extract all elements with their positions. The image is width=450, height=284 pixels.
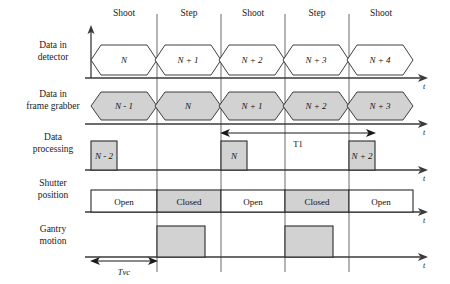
frame-grabber-time-axis-label: t: [423, 128, 426, 137]
row-label-detector-line2: detector: [38, 52, 69, 62]
column-header-3: Step: [309, 8, 326, 18]
detector-packet-label-1: N + 1: [176, 55, 198, 65]
detector-packet-label-4: N + 4: [368, 55, 391, 65]
row-label-processing-line2: processing: [33, 144, 74, 154]
frame-grabber-packet-label-3: N + 2: [304, 101, 327, 111]
annotation-tvc: Tvc: [90, 257, 158, 277]
annotation-t1-label: T1: [293, 139, 302, 149]
detector-time-axis-label: t: [423, 82, 426, 91]
shutter-time-axis-label: t: [423, 216, 426, 225]
timing-diagram-svg: Shoot Step Shoot Step Shoot Data in dete…: [0, 0, 450, 284]
timing-diagram: Shoot Step Shoot Step Shoot Data in dete…: [0, 0, 450, 284]
row-gantry: Gantry motion t Tvc: [40, 224, 428, 277]
gantry-block-1: [285, 226, 333, 257]
frame-grabber-packet-label-2: N + 1: [240, 101, 262, 111]
gantry-block-0: [157, 226, 205, 257]
row-detector: Data in detector t N N + 1 N + 2 N + 3 N…: [38, 25, 428, 91]
column-header-2: Shoot: [242, 8, 265, 18]
row-label-gantry-line2: motion: [40, 236, 67, 246]
gantry-time-axis-label: t: [423, 261, 426, 270]
row-label-frame-grabber-line1: Data in: [39, 89, 67, 99]
frame-grabber-packet-label-0: N - 1: [114, 101, 133, 111]
processing-time-axis-label: t: [423, 174, 426, 183]
row-label-processing-line1: Data: [44, 132, 63, 142]
row-processing: Data processing t N - 2 N N + 2 T1: [33, 129, 428, 183]
column-headers: Shoot Step Shoot Step Shoot: [113, 8, 393, 18]
column-header-0: Shoot: [113, 8, 136, 18]
row-label-gantry-line1: Gantry: [40, 224, 67, 234]
detector-packet-label-2: N + 2: [240, 55, 263, 65]
detector-packet-label-0: N: [120, 55, 128, 65]
shutter-state-label-1: Closed: [176, 197, 202, 207]
shutter-state-label-4: Open: [371, 197, 391, 207]
shutter-state-label-3: Closed: [304, 197, 330, 207]
annotation-tvc-label: Tvc: [118, 267, 131, 277]
detector-packet-label-3: N + 3: [304, 55, 327, 65]
row-label-detector-line1: Data in: [39, 40, 67, 50]
processing-block-label-1: N: [230, 151, 238, 161]
row-label-frame-grabber-line2: frame grabber: [26, 101, 80, 111]
row-label-shutter-line1: Shutter: [39, 178, 67, 188]
row-shutter: Shutter position t Open Closed Open Clos…: [38, 178, 428, 225]
column-header-1: Step: [181, 8, 198, 18]
frame-grabber-packet-label-1: N: [184, 101, 192, 111]
row-label-shutter-line2: position: [38, 190, 69, 200]
shutter-state-label-2: Open: [243, 197, 263, 207]
processing-block-label-2: N + 2: [350, 151, 373, 161]
frame-grabber-packet-label-4: N + 3: [368, 101, 391, 111]
processing-block-label-0: N - 2: [94, 151, 114, 161]
shutter-state-label-0: Open: [114, 197, 134, 207]
column-header-4: Shoot: [370, 8, 393, 18]
